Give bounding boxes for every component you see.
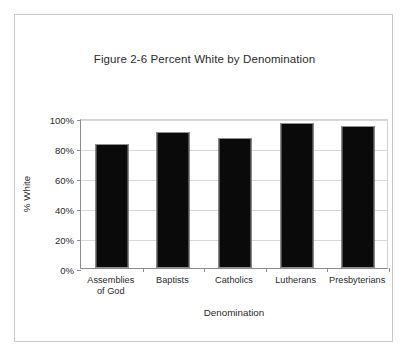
y-axis-tick-label: 60% <box>55 175 74 186</box>
y-axis-tick-label: 40% <box>55 205 74 216</box>
y-axis-tick-label: 20% <box>55 235 74 246</box>
bar[interactable] <box>95 144 128 269</box>
bars-layer <box>81 120 387 268</box>
x-axis-tick-mark <box>266 268 267 272</box>
bar-slot <box>143 120 205 268</box>
chart-title: Figure 2-6 Percent White by Denomination <box>15 53 394 65</box>
x-axis-category-label: Catholics <box>203 275 265 286</box>
x-axis-title: Denomination <box>80 307 388 318</box>
x-axis-tick-mark <box>143 268 144 272</box>
x-axis-category-label: Lutherans <box>265 275 327 286</box>
bar[interactable] <box>280 123 313 269</box>
bar[interactable] <box>342 126 375 268</box>
bar-slot <box>266 120 328 268</box>
bar-slot <box>204 120 266 268</box>
y-axis-title: % White <box>21 176 32 212</box>
bar[interactable] <box>157 132 190 268</box>
bar-slot <box>81 120 143 268</box>
y-axis-tick-label: 80% <box>55 145 74 156</box>
x-axis-category-label: Assemblies of God <box>80 275 142 297</box>
bar-slot <box>327 120 389 268</box>
y-axis-tick-label: 100% <box>50 115 74 126</box>
y-axis-tick-label: 0% <box>60 265 74 276</box>
bar[interactable] <box>218 138 251 269</box>
x-axis-tick-mark <box>389 268 390 272</box>
figure-frame: Figure 2-6 Percent White by Denomination… <box>14 14 393 342</box>
y-axis-tick-mark <box>77 270 81 271</box>
x-axis-tick-mark <box>327 268 328 272</box>
x-axis-category-label: Baptists <box>142 275 204 286</box>
x-axis-category-label: Presbyterians <box>326 275 388 286</box>
x-axis-tick-mark <box>204 268 205 272</box>
plot-area: 100%80%60%40%20%0% <box>80 119 388 269</box>
